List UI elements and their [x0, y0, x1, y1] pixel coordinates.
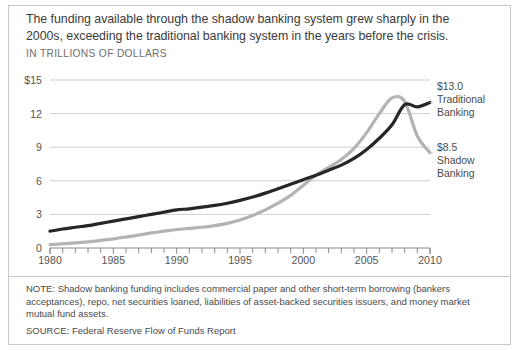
annotation-traditional-label-1: Traditional	[437, 93, 485, 106]
chart-figure: The funding available through the shadow…	[0, 0, 519, 350]
x-axis-tick-label: 1985	[102, 254, 126, 266]
y-axis-tick-label: $15	[2, 74, 42, 86]
chart-units-label: IN TRILLIONS OF DOLLARS	[26, 48, 167, 59]
annotation-traditional-banking: $13.0 Traditional Banking	[437, 80, 485, 120]
footer-source: SOURCE: Federal Reserve Flow of Funds Re…	[26, 325, 488, 338]
footer-divider	[9, 276, 510, 277]
annotation-shadow-banking: $8.5 Shadow Banking	[437, 141, 475, 181]
y-axis-tick-label: 12	[2, 108, 42, 120]
x-axis-tick-label: 1990	[165, 254, 189, 266]
y-axis-tick-label: 3	[2, 208, 42, 220]
x-axis-tick-label: 1980	[38, 254, 62, 266]
annotation-shadow-value: $8.5	[437, 141, 475, 154]
footer-note: NOTE: Shadow banking funding includes co…	[26, 283, 488, 321]
annotation-shadow-label-2: Banking	[437, 167, 475, 180]
x-axis-tick-label: 1995	[228, 254, 252, 266]
annotation-traditional-label-2: Banking	[437, 106, 485, 119]
x-axis-tick-label: 2005	[355, 254, 379, 266]
annotation-traditional-value: $13.0	[437, 80, 485, 93]
page-title: The funding available through the shadow…	[26, 11, 476, 44]
y-axis-tick-label: 6	[2, 175, 42, 187]
y-axis-tick-label: 9	[2, 141, 42, 153]
annotation-shadow-label-1: Shadow	[437, 154, 475, 167]
x-axis-tick-label: 2000	[292, 254, 316, 266]
y-axis-tick-label: 0	[2, 242, 42, 254]
x-axis-tick-label: 2010	[418, 254, 442, 266]
